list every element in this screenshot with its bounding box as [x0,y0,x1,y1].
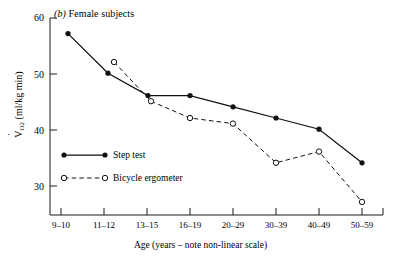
series-bicycle-ergometer [111,59,364,204]
x-axis-ticks [61,208,383,215]
series-step-test [65,31,364,165]
plot-area [0,0,401,262]
chart-figure: (b) Female subjects VO2 (ml/kg min) 60 5… [0,0,401,262]
series-step-test-markers [65,31,364,165]
series-bicycle-ergometer-line [114,62,362,202]
legend-swatch-step-test [61,152,107,157]
legend-swatch-bicycle-ergometer [61,175,107,180]
series-step-test-line [68,34,362,163]
y-axis-ticks [50,18,57,186]
series-bicycle-ergometer-markers [111,59,364,204]
